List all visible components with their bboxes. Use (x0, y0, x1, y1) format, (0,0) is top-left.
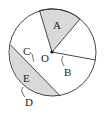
radius-line (52, 52, 96, 60)
label-o: O (41, 52, 49, 64)
leader-c (30, 52, 34, 62)
label-b: B (64, 66, 71, 78)
label-a: A (53, 19, 61, 31)
label-c: C (23, 45, 30, 57)
label-d: D (25, 96, 33, 108)
label-e: E (23, 72, 30, 84)
circle-diagram: A O B C E D (0, 0, 106, 114)
center-point (50, 50, 53, 53)
leader-b (62, 56, 65, 66)
